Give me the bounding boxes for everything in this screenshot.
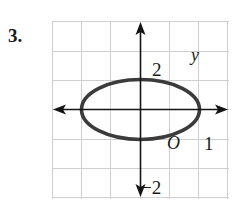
coordinate-plane: 2 −2 1 O y x	[52, 21, 229, 199]
y-axis-label: y	[191, 46, 199, 64]
graph-canvas	[52, 21, 229, 199]
y-tick-label-negative-2: −2	[141, 178, 161, 197]
y-tick-label-2: 2	[152, 60, 162, 79]
problem-number: 3.	[8, 26, 22, 45]
graph-figure: 3.	[0, 0, 237, 206]
x-tick-label-1: 1	[204, 134, 214, 153]
origin-label: O	[167, 134, 180, 152]
